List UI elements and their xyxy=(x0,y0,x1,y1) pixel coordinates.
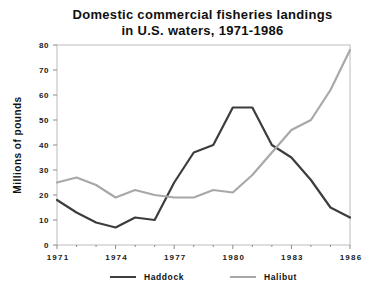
y-tick-label: 80 xyxy=(39,41,49,50)
y-tick-label: 40 xyxy=(39,141,49,150)
legend-label-halibut: Halibut xyxy=(264,272,297,282)
y-tick-label: 70 xyxy=(39,66,49,75)
halibut-line-swatch xyxy=(230,276,256,278)
x-tick-label: 1980 xyxy=(222,253,245,262)
legend-label-haddock: Haddock xyxy=(144,272,184,282)
y-tick-label: 30 xyxy=(39,166,49,175)
y-tick-label: 20 xyxy=(39,191,49,200)
x-tick-label: 1977 xyxy=(164,253,187,262)
y-tick-label: 60 xyxy=(39,91,49,100)
fisheries-landings-chart: Domestic commercial fisheries landings i… xyxy=(0,0,369,288)
y-tick-label: 0 xyxy=(44,241,49,250)
haddock-line-swatch xyxy=(110,276,136,278)
plot-svg: 0102030405060708019711974197719801983198… xyxy=(0,0,369,288)
y-tick-label: 50 xyxy=(39,116,49,125)
x-tick-label: 1983 xyxy=(281,253,304,262)
legend-item-haddock: Haddock xyxy=(110,272,184,282)
legend: Haddock Halibut xyxy=(0,272,369,282)
legend-item-halibut: Halibut xyxy=(230,272,297,282)
x-tick-label: 1974 xyxy=(105,253,128,262)
x-tick-label: 1971 xyxy=(47,253,70,262)
x-tick-label: 1986 xyxy=(340,253,363,262)
plot-border xyxy=(57,45,350,245)
y-tick-label: 10 xyxy=(39,216,49,225)
series-line-haddock xyxy=(57,108,350,228)
